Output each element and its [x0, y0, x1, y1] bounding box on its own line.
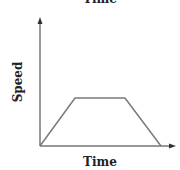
x-axis-arrow-icon — [169, 144, 176, 149]
y-axis-arrow-icon — [38, 17, 43, 24]
y-axis-label: Speed — [11, 62, 25, 103]
speed-line — [40, 98, 161, 146]
x-axis-label: Time — [0, 155, 180, 169]
speed-time-chart — [0, 0, 180, 170]
